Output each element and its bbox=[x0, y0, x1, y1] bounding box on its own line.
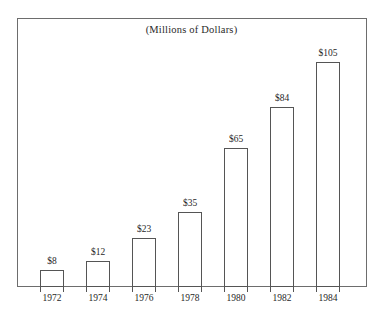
x-axis-label-1976: 1976 bbox=[118, 293, 170, 303]
bar-value-label-1972: $8 bbox=[26, 256, 78, 266]
bar-value-label-1980: $65 bbox=[210, 134, 262, 144]
bar-1978 bbox=[178, 212, 202, 287]
axis-tick-1972-right bbox=[63, 287, 64, 292]
bar-value-label-1982: $84 bbox=[256, 93, 308, 103]
axis-tick-1974-right bbox=[109, 287, 110, 292]
axis-tick-1978-left bbox=[178, 287, 179, 292]
x-axis-label-1980: 1980 bbox=[210, 293, 262, 303]
axis-tick-1980-left bbox=[224, 287, 225, 292]
axis-tick-1976-left bbox=[132, 287, 133, 292]
bar-value-label-1984: $105 bbox=[302, 48, 354, 58]
axis-tick-1972-left bbox=[40, 287, 41, 292]
bar-1972 bbox=[40, 270, 64, 287]
bar-chart: (Millions of Dollars) $81972$121974$2319… bbox=[0, 0, 383, 319]
bar-1982 bbox=[270, 107, 294, 287]
axis-tick-1976-right bbox=[155, 287, 156, 292]
axis-tick-1982-right bbox=[293, 287, 294, 292]
bar-1976 bbox=[132, 238, 156, 287]
x-axis-label-1974: 1974 bbox=[72, 293, 124, 303]
axis-tick-1974-left bbox=[86, 287, 87, 292]
bar-value-label-1976: $23 bbox=[118, 224, 170, 234]
bar-1984 bbox=[316, 62, 340, 287]
x-axis-label-1982: 1982 bbox=[256, 293, 308, 303]
x-axis-label-1984: 1984 bbox=[302, 293, 354, 303]
axis-tick-1984-right bbox=[339, 287, 340, 292]
bar-1974 bbox=[86, 261, 110, 287]
bars-layer: $81972$121974$231976$351978$651980$84198… bbox=[0, 0, 383, 319]
bar-value-label-1978: $35 bbox=[164, 198, 216, 208]
axis-tick-1978-right bbox=[201, 287, 202, 292]
axis-tick-1980-right bbox=[247, 287, 248, 292]
axis-tick-1982-left bbox=[270, 287, 271, 292]
x-axis-label-1972: 1972 bbox=[26, 293, 78, 303]
axis-tick-1984-left bbox=[316, 287, 317, 292]
bar-value-label-1974: $12 bbox=[72, 247, 124, 257]
x-axis-label-1978: 1978 bbox=[164, 293, 216, 303]
bar-1980 bbox=[224, 148, 248, 287]
